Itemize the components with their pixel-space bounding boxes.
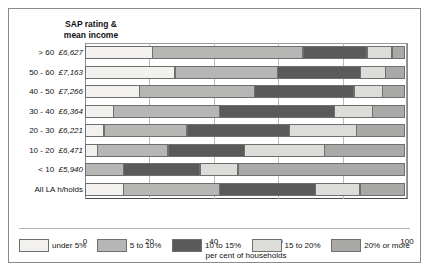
legend-swatch <box>19 239 49 252</box>
bar-segment <box>219 105 335 118</box>
legend-label: 10 to 15% <box>205 241 241 250</box>
gridline-100 <box>407 43 408 199</box>
bar-segment <box>354 85 383 98</box>
category-range: < 10 <box>38 165 54 174</box>
bar-segment <box>85 124 104 137</box>
legend-item[interactable]: 15 to 20% <box>252 239 321 252</box>
category-label: < 10 £5,940 <box>9 165 83 174</box>
category-label: 10 - 20 £6,471 <box>9 146 83 155</box>
bar-segment <box>85 105 114 118</box>
legend-label: under 5% <box>52 241 86 250</box>
category-income: £6,471 <box>54 146 83 155</box>
legend-item[interactable]: 5 to 10% <box>97 239 162 252</box>
bar-segment <box>97 144 168 157</box>
bar-row <box>85 85 407 98</box>
legend: under 5%5 to 10%10 to 15%15 to 20%20% or… <box>19 234 410 256</box>
category-range: > 60 <box>38 48 54 57</box>
category-income: £6,364 <box>54 107 83 116</box>
category-label: 40 - 50 £7,266 <box>9 87 83 96</box>
bar-row <box>85 66 407 79</box>
category-label: 30 - 40 £6,364 <box>9 107 83 116</box>
category-label: 50 - 60 £7,163 <box>9 68 83 77</box>
category-income: £7,266 <box>54 87 83 96</box>
bar-segment <box>367 46 393 59</box>
bar-segment <box>254 85 354 98</box>
axis-title: SAP rating & mean income <box>31 19 151 41</box>
legend-label: 15 to 20% <box>285 241 321 250</box>
bar-row <box>85 46 407 59</box>
category-range: 10 - 20 <box>29 146 54 155</box>
bar-segment <box>356 124 404 137</box>
bar-segment <box>303 46 367 59</box>
category-income: £6,627 <box>54 48 83 57</box>
bar-segment <box>360 66 386 79</box>
category-range: All LA h/holds <box>35 185 83 194</box>
chart-frame: SAP rating & mean income > 60 £6,62750 -… <box>8 8 421 263</box>
bar-row <box>85 163 407 176</box>
category-range: 30 - 40 <box>29 107 54 116</box>
bar-segment <box>315 183 360 196</box>
bar-segment <box>187 124 290 137</box>
legend-item[interactable]: under 5% <box>19 239 86 252</box>
bar-segment <box>85 183 124 196</box>
legend-label: 5 to 10% <box>130 241 162 250</box>
category-range: 20 - 30 <box>29 126 54 135</box>
bar-segment <box>382 85 405 98</box>
bar-segment <box>85 66 175 79</box>
bar-segment <box>200 163 239 176</box>
plot-top-line <box>85 43 407 44</box>
legend-divider <box>19 228 410 229</box>
legend-swatch <box>172 239 202 252</box>
bar-segment <box>324 144 405 157</box>
category-range: 40 - 50 <box>29 87 54 96</box>
category-label: > 60 £6,627 <box>9 48 83 57</box>
category-range: 50 - 60 <box>29 68 54 77</box>
bar-segment <box>289 124 357 137</box>
bar-segment <box>244 144 325 157</box>
category-income: £7,163 <box>54 68 83 77</box>
bar-row <box>85 124 407 137</box>
legend-swatch <box>97 239 127 252</box>
category-income: £5,940 <box>54 165 83 174</box>
category-label: All LA h/holds <box>9 185 83 194</box>
bar-segment <box>104 124 188 137</box>
bar-segment <box>168 144 245 157</box>
bar-segment <box>85 144 98 157</box>
bar-row <box>85 105 407 118</box>
bar-row <box>85 144 407 157</box>
bar-segment <box>372 105 404 118</box>
category-label: 20 - 30 £6,221 <box>9 126 83 135</box>
bar-segment <box>152 46 303 59</box>
legend-swatch <box>252 239 282 252</box>
bar-segment <box>85 46 153 59</box>
bar-segment <box>139 85 255 98</box>
legend-label: 20% or more <box>364 241 410 250</box>
bar-segment <box>123 163 200 176</box>
bar-segment <box>85 85 140 98</box>
x-axis-line <box>85 198 407 199</box>
bar-segment <box>219 183 316 196</box>
bar-segment <box>238 163 405 176</box>
bar-segment <box>123 183 220 196</box>
bar-segment <box>334 105 373 118</box>
bar-segment <box>392 46 405 59</box>
bar-row <box>85 183 407 196</box>
bar-segment <box>360 183 405 196</box>
category-income: £6,221 <box>54 126 83 135</box>
bar-segment <box>85 163 124 176</box>
legend-item[interactable]: 20% or more <box>331 239 410 252</box>
bar-segment <box>113 105 219 118</box>
plot-area: > 60 £6,62750 - 60 £7,16340 - 50 £7,2663… <box>85 43 407 199</box>
bar-segment <box>277 66 361 79</box>
legend-swatch <box>331 239 361 252</box>
bar-segment <box>175 66 278 79</box>
bar-segment <box>385 66 404 79</box>
legend-item[interactable]: 10 to 15% <box>172 239 241 252</box>
